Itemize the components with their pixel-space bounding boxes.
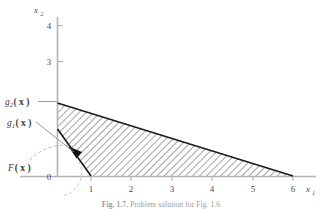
svg-text:g2( x ): g2( x ) bbox=[5, 97, 29, 108]
g2-annotation: g2( x ) bbox=[5, 97, 29, 108]
y-tick-label-4: 4 bbox=[47, 21, 52, 31]
x-axis-subscript: 1 bbox=[312, 190, 315, 196]
objective-arc-upper bbox=[30, 145, 76, 160]
y-axis-subscript: 2 bbox=[41, 11, 44, 17]
figure-caption: Fig. 1.7. Problem solution for Fig. 1.6 bbox=[0, 200, 322, 209]
axis-name-x: x 1 bbox=[305, 184, 315, 196]
x-tick-labels: 1 2 3 4 5 6 bbox=[89, 184, 296, 194]
g1-label-arg: ( x ) bbox=[16, 118, 32, 129]
origin-label: 0 bbox=[47, 172, 52, 182]
x-axis-label: x bbox=[305, 184, 310, 194]
x-tick-label-1: 1 bbox=[89, 184, 94, 194]
x-tick-label-3: 3 bbox=[170, 184, 175, 194]
x-tick-label-5: 5 bbox=[251, 184, 256, 194]
objective-direction-indicator bbox=[30, 145, 82, 196]
y-axis-label: x bbox=[33, 5, 38, 15]
x-tick-label-6: 6 bbox=[291, 184, 296, 194]
caption-prefix: Fig. 1.7. bbox=[102, 200, 128, 209]
caption-text: Problem solution for Fig. 1.6 bbox=[130, 200, 220, 209]
x-tick-label-4: 4 bbox=[210, 184, 215, 194]
F-label-text: F bbox=[7, 163, 14, 173]
figure-container: 1 2 3 4 5 6 4 3 0 x 2 x 1 g2( x ) bbox=[0, 0, 322, 210]
x-tick-label-2: 2 bbox=[129, 184, 134, 194]
axis-name-y: x 2 bbox=[33, 5, 44, 17]
svg-text:F( x ): F( x ) bbox=[7, 163, 31, 174]
F-label-arg: ( x ) bbox=[15, 163, 31, 174]
F-annotation: F( x ) bbox=[7, 163, 31, 174]
y-axis-ticks bbox=[58, 26, 64, 62]
linear-programming-plot: 1 2 3 4 5 6 4 3 0 x 2 x 1 g2( x ) bbox=[0, 0, 322, 210]
g1-annotation: g1( x ) bbox=[7, 118, 31, 129]
y-tick-label-3: 3 bbox=[47, 57, 52, 67]
svg-text:g1( x ): g1( x ) bbox=[7, 118, 31, 129]
g1-label-subscript: 1 bbox=[12, 122, 15, 129]
g2-label-arg: ( x ) bbox=[14, 97, 30, 108]
